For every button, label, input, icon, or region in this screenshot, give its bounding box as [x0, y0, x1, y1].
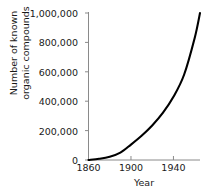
- plot-area: [0, 0, 203, 195]
- tick-marks: [85, 13, 173, 160]
- series-line: [89, 13, 201, 160]
- data-series: [89, 13, 201, 160]
- chart-figure: Number of known organic compounds 0200,0…: [0, 0, 203, 195]
- axis-lines: [89, 12, 201, 160]
